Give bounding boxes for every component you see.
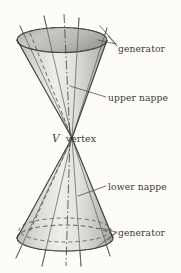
label-generator-top: generator: [118, 44, 165, 53]
double-cone-diagram: generator upper nappe V vertex lower nap…: [0, 0, 181, 273]
label-lower-nappe: lower nappe: [108, 182, 167, 191]
label-vertex-word: vertex: [66, 134, 96, 143]
label-generator-bottom: generator: [118, 228, 165, 237]
upper-cone-lateral-face: [17, 40, 107, 138]
label-vertex-symbol: V: [52, 133, 60, 144]
label-upper-nappe: upper nappe: [108, 93, 168, 102]
lower-nappe-surface: [17, 138, 113, 251]
lower-cone-lateral-face: [17, 138, 113, 251]
upper-nappe-surface: [17, 27, 107, 138]
